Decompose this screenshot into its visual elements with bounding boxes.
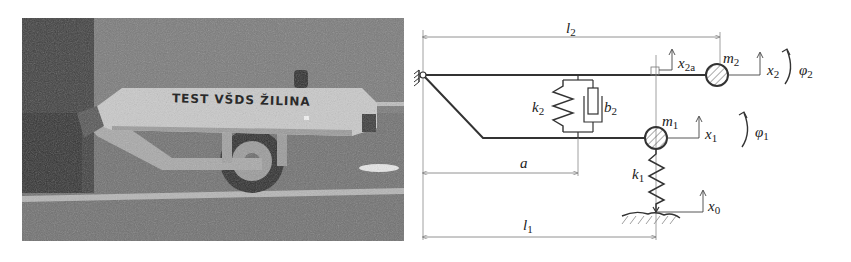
trailer-photo: TEST VŠDS ŽILINA <box>22 18 404 241</box>
label-m2: m2 <box>723 51 739 68</box>
label-x0: x0 <box>708 199 720 216</box>
label-k1: k1 <box>632 167 644 184</box>
label-phi2: φ2 <box>799 63 813 80</box>
label-l2: l2 <box>566 21 576 38</box>
label-x2a: x2a <box>678 56 695 73</box>
fixed-support <box>414 70 419 86</box>
label-k2: k2 <box>532 100 544 117</box>
suspension-k2-b2 <box>553 75 602 138</box>
label-phi1: φ1 <box>755 125 769 142</box>
diagram-drawing <box>405 0 851 262</box>
label-x2: x2 <box>767 63 779 80</box>
label-l1: l1 <box>523 218 533 235</box>
mechanical-model-diagram: l2 a l1 k2 b2 k1 m1 m2 x2a x2 x1 x0 φ2 φ… <box>405 0 851 262</box>
x2a-marker <box>651 67 659 75</box>
photo-scene <box>22 18 404 241</box>
spring-k1 <box>649 149 664 212</box>
ground-hatch <box>622 216 676 224</box>
label-a: a <box>520 156 528 171</box>
x0-arrow <box>656 191 703 212</box>
label-b2: b2 <box>604 100 617 117</box>
hinge <box>420 72 426 78</box>
label-x1: x1 <box>705 127 717 144</box>
label-m1: m1 <box>662 114 678 131</box>
